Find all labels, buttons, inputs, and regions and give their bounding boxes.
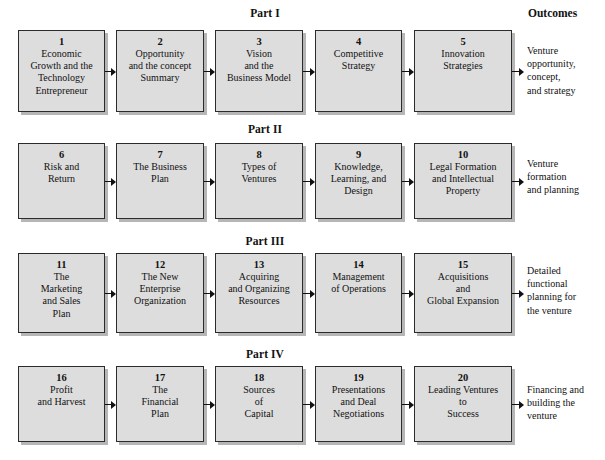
arrow-shaft: [512, 71, 519, 73]
chapter-title: The New Enterprise Organization: [132, 271, 188, 308]
chapter-number: 3: [256, 36, 261, 48]
chapter-title: Types of Ventures: [240, 161, 279, 185]
chapter-number: 18: [254, 372, 265, 384]
chapter-title: The Business Plan: [131, 161, 189, 185]
chapter-box-9[interactable]: 9 Knowledge, Learning, and Design: [315, 143, 402, 219]
arrow-shaft: [512, 404, 519, 406]
arrow-right-icon: [204, 177, 215, 186]
arrow-right-icon: [402, 177, 414, 186]
chapter-box-16[interactable]: 16 Profit and Harvest: [18, 366, 105, 442]
chapter-title: Knowledge, Learning, and Design: [329, 161, 389, 198]
outcome-text-2: Venture formation and planning: [527, 157, 605, 197]
chapter-number: 1: [59, 36, 64, 48]
arrow-shaft: [402, 71, 409, 73]
chapter-box-19[interactable]: 19 Presentations and Deal Negotiations: [315, 366, 402, 442]
chapter-number: 19: [353, 372, 364, 384]
chapter-number: 7: [157, 149, 162, 161]
arrow-right-icon: [402, 289, 414, 298]
arrow-right-icon: [303, 67, 315, 76]
chapter-box-4[interactable]: 4 Competitive Strategy: [315, 30, 402, 112]
arrow-right-icon: [105, 177, 116, 186]
arrow-right-icon: [512, 177, 524, 186]
chapter-row-1: 1 Economic Growth and the Technology Ent…: [0, 0, 605, 118]
arrow-right-icon: [105, 67, 116, 76]
arrow-right-icon: [204, 67, 215, 76]
arrow-shaft: [402, 181, 409, 183]
chapter-box-11[interactable]: 11 The Marketing and Sales Plan: [18, 253, 105, 333]
arrow-head: [519, 68, 524, 76]
chapter-number: 2: [157, 36, 162, 48]
chapter-box-6[interactable]: 6 Risk and Return: [18, 143, 105, 219]
chapter-box-20[interactable]: 20 Leading Ventures to Success: [414, 366, 512, 442]
chapter-box-13[interactable]: 13 Acquiring and Organizing Resources: [215, 253, 303, 333]
part-row-4: Part IV 16 Profit and Harvest 17 The Fin…: [0, 344, 605, 460]
arrow-shaft: [303, 71, 310, 73]
chapter-box-14[interactable]: 14 Management of Operations: [315, 253, 402, 333]
part-row-1: Part I 1 Economic Growth and the Technol…: [0, 0, 605, 118]
chapter-title: Vision and the Business Model: [225, 48, 293, 85]
chapter-number: 11: [57, 259, 67, 271]
arrow-right-icon: [512, 289, 524, 298]
part-row-2: Part II 6 Risk and Return 7 The Business…: [0, 118, 605, 231]
chapter-title: Management of Operations: [329, 271, 388, 295]
chapter-box-3[interactable]: 3 Vision and the Business Model: [215, 30, 303, 112]
arrow-shaft: [512, 293, 519, 295]
chapter-number: 14: [353, 259, 364, 271]
chapter-title: Acquisitions and Global Expansion: [425, 271, 501, 308]
chapter-title: Acquiring and Organizing Resources: [226, 271, 292, 308]
chapter-number: 9: [356, 149, 361, 161]
chapter-box-7[interactable]: 7 The Business Plan: [116, 143, 204, 219]
arrow-right-icon: [204, 400, 215, 409]
chapter-row-4: 16 Profit and Harvest 17 The Financial P…: [0, 344, 605, 460]
arrow-head: [519, 290, 524, 298]
chapter-title: Presentations and Deal Negotiations: [330, 384, 387, 421]
chapter-title: The Marketing and Sales Plan: [39, 271, 85, 320]
chapter-title: Profit and Harvest: [35, 384, 87, 408]
chapter-number: 5: [460, 36, 465, 48]
chapter-title: Competitive Strategy: [332, 48, 385, 72]
chapter-box-2[interactable]: 2 Opportunity and the concept Summary: [116, 30, 204, 112]
chapter-number: 12: [155, 259, 166, 271]
chapter-title: Economic Growth and the Technology Entre…: [28, 48, 94, 97]
chapter-title: The Financial Plan: [139, 384, 180, 421]
chapter-box-1[interactable]: 1 Economic Growth and the Technology Ent…: [18, 30, 105, 112]
chapter-box-10[interactable]: 10 Legal Formation and Intellectual Prop…: [414, 143, 512, 219]
arrow-right-icon: [105, 400, 116, 409]
arrow-head: [519, 178, 524, 186]
chapter-number: 20: [458, 372, 469, 384]
arrow-right-icon: [402, 400, 414, 409]
chapter-title: Leading Ventures to Success: [426, 384, 500, 421]
chapter-title: Sources of Capital: [241, 384, 277, 421]
outcome-text-1: Venture opportunity, concept, and strate…: [527, 44, 603, 97]
chapter-box-8[interactable]: 8 Types of Ventures: [215, 143, 303, 219]
chapter-number: 16: [56, 372, 67, 384]
chapter-box-5[interactable]: 5 Innovation Strategies: [414, 30, 512, 112]
arrow-shaft: [303, 293, 310, 295]
part-row-3: Part III 11 The Marketing and Sales Plan…: [0, 231, 605, 344]
arrow-head: [519, 401, 524, 409]
chapter-title: Opportunity and the concept Summary: [127, 48, 194, 85]
chapter-row-2: 6 Risk and Return 7 The Business Plan 8 …: [0, 118, 605, 231]
outcome-text-4: Financing and building the venture: [527, 383, 605, 423]
chapter-box-15[interactable]: 15 Acquisitions and Global Expansion: [414, 253, 512, 333]
arrow-right-icon: [402, 67, 414, 76]
chapter-box-17[interactable]: 17 The Financial Plan: [116, 366, 204, 442]
chapter-title: Risk and Return: [42, 161, 81, 185]
arrow-right-icon: [303, 289, 315, 298]
outcome-text-3: Detailed functional planning for the ven…: [527, 264, 605, 317]
chapter-number: 10: [458, 149, 469, 161]
chapter-number: 6: [59, 149, 64, 161]
chapter-box-18[interactable]: 18 Sources of Capital: [215, 366, 303, 442]
textbook-structure-diagram: Outcomes Part I 1 Economic Growth and th…: [0, 0, 605, 460]
arrow-right-icon: [303, 400, 315, 409]
arrow-right-icon: [105, 289, 116, 298]
arrow-shaft: [303, 404, 310, 406]
arrow-shaft: [512, 181, 519, 183]
arrow-right-icon: [512, 400, 524, 409]
arrow-right-icon: [204, 289, 215, 298]
arrow-shaft: [303, 181, 310, 183]
chapter-title: Innovation Strategies: [439, 48, 486, 72]
chapter-box-12[interactable]: 12 The New Enterprise Organization: [116, 253, 204, 333]
arrow-right-icon: [512, 67, 524, 76]
chapter-number: 8: [256, 149, 261, 161]
